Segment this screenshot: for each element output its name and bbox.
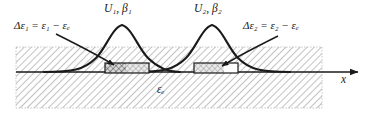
delta-eps-2-label: Δε₂ = ε₂ − εₑ xyxy=(243,20,299,31)
potential-barrier-diagram: Δε₁ = ε₁ − εₑ Δε₂ = ε₂ − εₑ U₁, β₁ U₂, β… xyxy=(0,0,374,116)
barrier-2-label: U₂, β₂ xyxy=(194,3,222,15)
barrier-1-label: U₁, β₁ xyxy=(104,3,132,15)
substrate-hatch-region xyxy=(16,47,322,108)
substrate-label: εₑ xyxy=(157,84,165,96)
inclusion-box-1 xyxy=(105,63,149,73)
diagram-canvas xyxy=(0,0,374,116)
x-axis-label: x xyxy=(341,74,346,86)
delta-eps-1-label: Δε₁ = ε₁ − εₑ xyxy=(14,20,70,31)
inclusion-box-2 xyxy=(194,63,238,73)
